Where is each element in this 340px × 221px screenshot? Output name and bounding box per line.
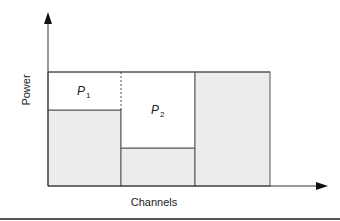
p2-subscript: 2	[160, 110, 165, 119]
channel-1-noise-block	[48, 110, 121, 186]
p2-label: P	[151, 103, 159, 117]
channel-2-noise-block	[121, 148, 195, 186]
p1-subscript: 1	[86, 91, 91, 100]
x-axis-label: Channels	[131, 196, 178, 208]
y-axis-arrow-icon	[44, 12, 52, 24]
water-filling-diagram: P 1 P 2 Power Channels	[0, 0, 340, 221]
bottom-rule	[0, 218, 340, 220]
p1-label: P	[77, 84, 85, 98]
x-axis-arrow-icon	[316, 182, 328, 190]
y-axis-label: Power	[20, 74, 32, 106]
channel-3-noise-block	[195, 72, 270, 186]
